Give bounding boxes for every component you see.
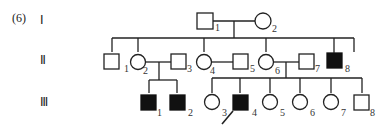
III-3-female: [205, 95, 220, 110]
III-8-male: [354, 95, 369, 110]
id-III-8: 8: [370, 108, 375, 118]
pedigree-chart: (6) Ⅰ Ⅱ Ⅲ: [0, 0, 383, 129]
II-5-male: [233, 54, 248, 69]
id-II-7: 7: [315, 64, 320, 74]
II-3-male: [171, 54, 186, 69]
III-1-male-affected: [141, 95, 156, 110]
id-III-6: 6: [310, 108, 315, 118]
III-2-male-affected: [170, 95, 185, 110]
II-1-male: [104, 54, 119, 69]
id-III-3: 3: [222, 108, 227, 118]
I-2-female: [255, 13, 271, 29]
II-7-male: [299, 54, 314, 69]
id-III-2: 2: [188, 108, 193, 118]
id-II-1: 1: [124, 64, 129, 74]
II-8-male-affected: [327, 53, 342, 68]
id-III-4: 4: [252, 108, 257, 118]
III-5-female: [263, 95, 278, 110]
id-I-2: 2: [272, 24, 277, 34]
id-III-5: 5: [280, 108, 285, 118]
id-III-1: 1: [157, 108, 162, 118]
III-6-female: [293, 95, 308, 110]
III-7-female: [324, 95, 339, 110]
I-1-male: [197, 13, 213, 29]
id-II-5: 5: [250, 64, 255, 74]
id-II-3: 3: [187, 64, 192, 74]
id-II-4: 4: [210, 66, 215, 76]
id-I-1: 1: [215, 23, 220, 33]
II-6-female: [259, 55, 274, 70]
III-4-male-affected-proband: [233, 95, 248, 110]
id-III-7: 7: [341, 108, 346, 118]
id-II-6: 6: [275, 66, 280, 76]
id-II-8: 8: [345, 64, 350, 74]
id-II-2: 2: [143, 66, 148, 76]
